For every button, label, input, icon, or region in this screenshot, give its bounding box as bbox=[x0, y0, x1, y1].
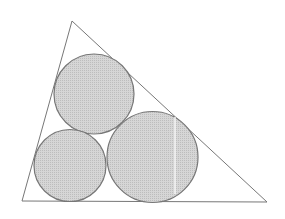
bottom-right-circle bbox=[107, 112, 198, 203]
bottom-left-circle bbox=[34, 130, 106, 202]
circles-in-triangle-diagram bbox=[0, 0, 285, 219]
circles-group bbox=[34, 54, 198, 203]
top-circle bbox=[54, 54, 134, 134]
